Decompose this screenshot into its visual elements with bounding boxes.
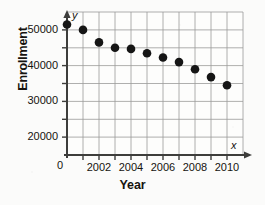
- origin-label: 0: [57, 159, 63, 171]
- y-axis-title: Enrollment: [16, 14, 30, 104]
- data-point: [191, 65, 200, 74]
- data-point: [63, 20, 72, 29]
- data-point: [79, 26, 88, 35]
- x-tick-label-2002: 2002: [82, 161, 116, 173]
- data-point: [111, 44, 120, 53]
- x-axis-letter: x: [231, 139, 237, 151]
- x-tick-label-2010: 2010: [210, 161, 244, 173]
- data-point: [127, 45, 136, 54]
- x-tick-label-2004: 2004: [114, 161, 148, 173]
- data-point: [207, 73, 216, 82]
- x-tick-label-2008: 2008: [178, 161, 212, 173]
- x-axis-arrow: [244, 151, 252, 158]
- enrollment-scatter-chart: 50000 40000 30000 20000 0 2002 2004 2006…: [0, 0, 265, 205]
- x-axis-title: Year: [0, 178, 265, 192]
- data-point: [159, 53, 168, 62]
- data-point: [175, 58, 184, 67]
- x-tick-label-2006: 2006: [146, 161, 180, 173]
- data-point: [143, 49, 152, 58]
- data-point: [95, 38, 104, 47]
- data-point: [223, 81, 232, 90]
- y-axis-letter: y: [72, 9, 78, 21]
- y-tick-label-20000: 20000: [8, 130, 58, 142]
